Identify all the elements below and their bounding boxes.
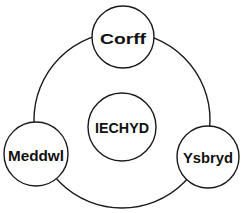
node-meddwl: Meddwl [4, 122, 68, 186]
node-meddwl-label: Meddwl [8, 147, 64, 164]
health-cycle-diagram: Corff Meddwl Ysbryd IECHYD [0, 0, 241, 213]
node-ysbryd-label: Ysbryd [183, 149, 233, 166]
node-corff: Corff [92, 6, 154, 68]
center-node-iechyd: IECHYD [88, 93, 156, 161]
center-node-label: IECHYD [95, 119, 149, 136]
node-corff-label: Corff [100, 30, 147, 47]
node-ysbryd: Ysbryd [177, 126, 239, 188]
